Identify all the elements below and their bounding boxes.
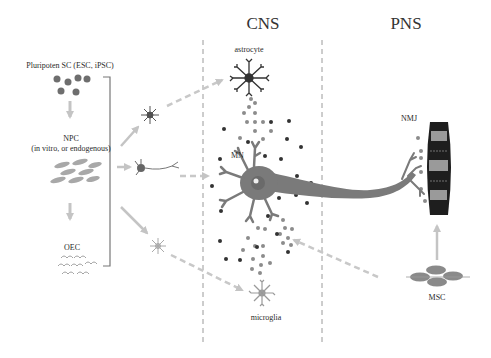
- microglia-icon: [249, 280, 275, 306]
- arrow-to-astro-precursor: [121, 127, 138, 146]
- source-bracket: [103, 77, 110, 266]
- astrocyte-icon: [230, 59, 269, 96]
- npc-label: NPC: [63, 134, 79, 143]
- npc-cells-icon: [50, 158, 103, 185]
- npc-sublabel: (in vitro, or endogenous): [31, 144, 111, 153]
- motor-neuron-label: MN: [231, 151, 244, 160]
- pluripotent-cells-icon: [54, 75, 91, 96]
- neuron-precursor-icon: [135, 159, 179, 175]
- astrocyte-precursor-icon: [141, 106, 159, 124]
- msc-cells-icon: [406, 266, 470, 287]
- pluripotent-label: Pluripoten SC (ESC, iPSC): [26, 61, 114, 70]
- motor-neuron-icon: [220, 142, 424, 222]
- diagram-canvas: CNS PNS Pluripoten SC (ESC, iPSC) NPC (i…: [0, 0, 491, 358]
- arrow-to-astrocyte: [167, 80, 222, 106]
- microglia-label: microglia: [251, 313, 282, 322]
- astrocyte-label: astrocyte: [235, 45, 264, 54]
- oec-label: OEC: [64, 243, 80, 252]
- pns-title: PNS: [390, 14, 421, 34]
- oec-cells-icon: [58, 256, 97, 274]
- cns-title: CNS: [246, 14, 279, 34]
- nmj-label: NMJ: [401, 114, 417, 123]
- arrow-to-microglia-precursor: [121, 207, 147, 233]
- microglia-precursor-icon: [150, 238, 166, 254]
- arrow-msc-to-cns: [294, 240, 378, 277]
- arrow-to-microglia: [171, 255, 242, 290]
- muscle-fiber-icon: [427, 122, 451, 215]
- msc-label: MSC: [429, 293, 446, 302]
